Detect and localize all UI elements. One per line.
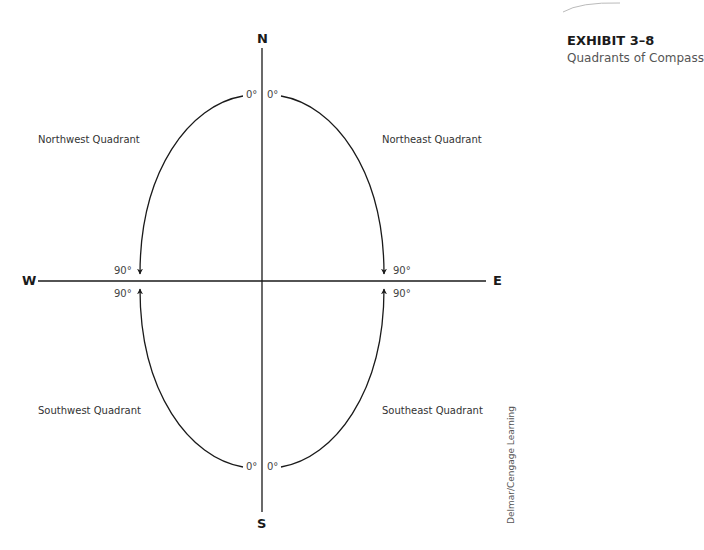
southwest-arc-arrow (140, 289, 243, 467)
ne-top-degree: 0° (267, 89, 278, 100)
northwest-quadrant-label: Northwest Quadrant (38, 134, 140, 145)
sw-bottom-degree: 0° (246, 461, 257, 472)
nw-side-degree: 90° (114, 265, 132, 276)
nw-top-degree: 0° (246, 89, 257, 100)
decorative-swoosh (563, 3, 620, 12)
southeast-quadrant-label: Southeast Quadrant (382, 405, 483, 416)
east-label: E (493, 273, 502, 288)
southwest-quadrant-label: Southwest Quadrant (38, 405, 141, 416)
exhibit-subtitle: Quadrants of Compass (567, 51, 704, 65)
southeast-arc-arrow (281, 289, 384, 467)
north-label: N (257, 31, 268, 46)
northeast-arc-arrow (281, 96, 384, 274)
se-side-degree: 90° (393, 288, 411, 299)
west-label: W (22, 273, 36, 288)
exhibit-title: EXHIBIT 3–8 (567, 33, 654, 48)
ne-side-degree: 90° (393, 265, 411, 276)
se-bottom-degree: 0° (267, 461, 278, 472)
northeast-quadrant-label: Northeast Quadrant (382, 134, 482, 145)
northwest-arc-arrow (140, 96, 243, 274)
image-credit: Delmar/Cengage Learning (506, 406, 516, 524)
sw-side-degree: 90° (114, 288, 132, 299)
south-label: S (257, 516, 266, 531)
